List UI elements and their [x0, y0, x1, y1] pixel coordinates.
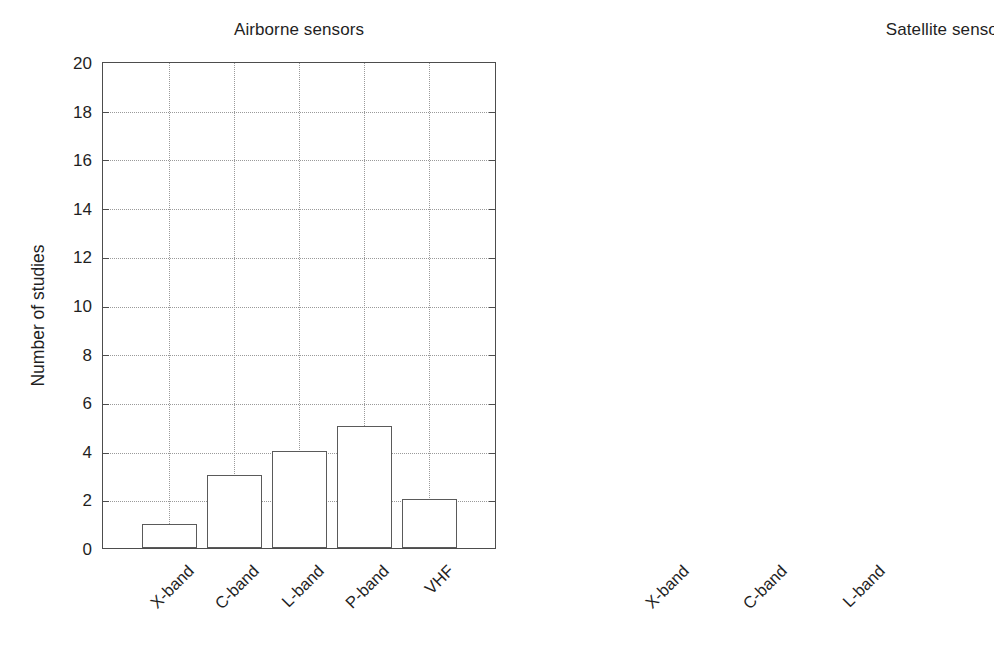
y-tick-mark: [103, 160, 109, 161]
chart-panel-satellite: Satellite sensors 0 2 4 6 8 10 12 14 16 …: [500, 0, 994, 648]
y-axis-label: Number of studies: [28, 186, 49, 446]
y-tick-mark: [489, 160, 495, 161]
bar-airborne-vhf: [402, 499, 457, 548]
gridline-vertical: [429, 63, 430, 548]
y-tick-label: 4: [58, 444, 92, 461]
y-tick-label: 0: [58, 541, 92, 558]
y-tick-mark: [489, 355, 495, 356]
y-axis-tick-labels-airborne: 0 2 4 6 8 10 12 14 16 18 20: [56, 0, 92, 648]
y-tick-mark: [489, 501, 495, 502]
y-tick-mark: [103, 355, 109, 356]
y-tick-label: 10: [58, 298, 92, 315]
y-tick-label: 12: [58, 249, 92, 266]
y-tick-mark: [489, 453, 495, 454]
y-tick-label: 20: [58, 55, 92, 72]
figure-canvas: Airborne sensors Number of studies 0 2 4…: [0, 0, 994, 648]
chart-panel-airborne: Airborne sensors Number of studies 0 2 4…: [0, 0, 520, 648]
bar-airborne-x-band: [142, 524, 197, 548]
y-tick-mark: [103, 453, 109, 454]
bar-airborne-c-band: [207, 475, 262, 548]
y-tick-label: 16: [58, 152, 92, 169]
bar-airborne-l-band: [272, 451, 327, 548]
y-tick-mark: [103, 209, 109, 210]
y-tick-label: 18: [58, 104, 92, 121]
y-tick-mark: [103, 258, 109, 259]
y-tick-mark: [103, 307, 109, 308]
y-tick-label: 8: [58, 347, 92, 364]
y-tick-mark: [103, 501, 109, 502]
plot-area-airborne: [102, 62, 496, 549]
y-tick-mark: [489, 258, 495, 259]
y-tick-mark: [489, 112, 495, 113]
y-tick-mark: [489, 307, 495, 308]
y-tick-label: 6: [58, 395, 92, 412]
bar-airborne-p-band: [337, 426, 392, 548]
y-tick-mark: [103, 112, 109, 113]
y-tick-label: 14: [58, 201, 92, 218]
gridline-vertical: [169, 63, 170, 548]
y-tick-mark: [103, 404, 109, 405]
x-tick-label-satellite-c-band: C-band: [707, 562, 790, 645]
y-tick-mark: [489, 209, 495, 210]
y-tick-mark: [489, 404, 495, 405]
x-tick-label-satellite-x-band: X-band: [609, 562, 692, 645]
y-tick-label: 2: [58, 492, 92, 509]
x-tick-label-satellite-l-band: L-band: [805, 562, 888, 645]
panel-title-satellite: Satellite sensors: [500, 20, 994, 40]
